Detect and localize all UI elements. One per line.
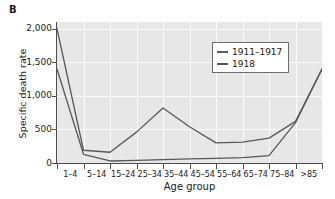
x-axis-tick-mark xyxy=(57,164,58,169)
x-axis-tick-mark xyxy=(269,164,270,169)
x-axis-tick-mark xyxy=(216,164,217,169)
y-axis-tick-label: 2,000 xyxy=(16,24,52,33)
legend-label-1918: 1918 xyxy=(232,59,255,69)
x-axis-tick-label: 55–64 xyxy=(216,170,243,179)
y-axis-tick-labels: 05001,0001,5002,000 xyxy=(14,0,52,199)
y-axis-tick-label: 1,500 xyxy=(16,58,52,67)
x-axis-tick-label: 15–24 xyxy=(110,170,137,179)
legend-entry: 1918 xyxy=(217,58,288,70)
x-axis-tick-mark xyxy=(137,164,138,169)
y-axis-tick-label: 0 xyxy=(16,159,52,168)
x-axis-tick-label: 45–54 xyxy=(190,170,217,179)
figure-panel-b: B Specific death rate 05001,0001,5002,00… xyxy=(0,0,335,199)
y-axis-tick-mark xyxy=(52,62,57,63)
x-axis-tick-label: >85 xyxy=(296,170,323,179)
series-line-1911-1917 xyxy=(57,69,322,161)
y-axis-tick-mark xyxy=(52,96,57,97)
x-axis-tick-label: 5–14 xyxy=(84,170,111,179)
legend-label-1911-1917: 1911–1917 xyxy=(232,47,282,57)
x-axis-title: Age group xyxy=(57,181,322,193)
legend-line-swatch-1918 xyxy=(217,63,228,64)
x-axis-tick-label: 1–4 xyxy=(57,170,84,179)
legend-line-swatch-1911-1917 xyxy=(217,51,228,52)
legend-entry: 1911–1917 xyxy=(217,46,288,58)
y-axis-tick-label: 1,000 xyxy=(16,91,52,100)
x-axis-tick-mark xyxy=(84,164,85,169)
x-axis-tick-mark xyxy=(190,164,191,169)
x-axis-tick-label: 75–84 xyxy=(269,170,296,179)
legend: 1911–1917 1918 xyxy=(212,42,289,73)
y-axis-tick-mark xyxy=(52,29,57,30)
y-axis-tick-mark xyxy=(52,163,57,164)
y-axis-tick-mark xyxy=(52,129,57,130)
x-axis-tick-mark xyxy=(322,164,323,169)
x-axis-tick-mark xyxy=(296,164,297,169)
x-axis-tick-mark xyxy=(110,164,111,169)
x-axis-tick-mark xyxy=(243,164,244,169)
x-axis-tick-label: 25–34 xyxy=(137,170,164,179)
y-axis-tick-label: 500 xyxy=(16,125,52,134)
x-axis-tick-label: 65–74 xyxy=(243,170,270,179)
x-axis-tick-label: 35–44 xyxy=(163,170,190,179)
x-axis-tick-mark xyxy=(163,164,164,169)
